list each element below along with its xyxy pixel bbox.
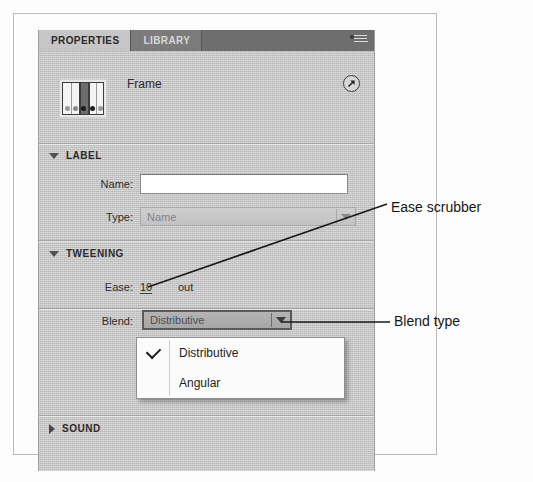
screenshot-root: PROPERTIES LIBRARY [0, 0, 533, 482]
properties-panel: PROPERTIES LIBRARY [38, 30, 375, 471]
blend-dropdown-menu: Distributive Angular [136, 337, 345, 399]
tab-properties-label: PROPERTIES [51, 35, 119, 46]
divider-above-sound [39, 415, 374, 416]
blend-field-label: Blend: [61, 315, 133, 327]
blend-select[interactable]: Distributive [142, 310, 292, 330]
divider-above-blend [39, 308, 374, 309]
name-input[interactable] [140, 174, 348, 194]
blend-select-value: Distributive [144, 314, 271, 326]
checkmark-icon [137, 338, 169, 368]
section-header-sound[interactable]: SOUND [49, 423, 101, 434]
section-sound-title: SOUND [62, 423, 101, 434]
panel-tab-bar: PROPERTIES LIBRARY [39, 30, 374, 51]
menu-item-angular[interactable]: Angular [137, 368, 344, 398]
panel-menu-dot [350, 35, 354, 39]
type-select[interactable]: Name [140, 207, 356, 226]
menu-item-distributive-label: Distributive [169, 346, 238, 360]
ease-scrubber-value[interactable]: 10 [140, 281, 152, 294]
label-name-field-label: Name: [61, 178, 133, 190]
tab-library[interactable]: LIBRARY [131, 30, 202, 51]
diagonal-arrow-icon[interactable] [343, 75, 360, 92]
panel-menu-icon[interactable] [354, 35, 368, 46]
chevron-down-icon [272, 317, 290, 323]
tab-properties[interactable]: PROPERTIES [39, 30, 131, 51]
ease-direction-label: out [178, 281, 193, 293]
annotation-ease-scrubber: Ease scrubber [391, 199, 481, 215]
section-header-tweening[interactable]: TWEENING [49, 248, 124, 259]
menu-item-angular-label: Angular [169, 376, 220, 390]
divider-above-label [39, 143, 374, 144]
triangle-down-icon [49, 153, 59, 159]
section-tweening-title: TWEENING [66, 248, 124, 259]
label-type-field-label: Type: [61, 211, 133, 223]
tab-library-label: LIBRARY [143, 35, 190, 46]
divider-above-tweening [39, 240, 374, 241]
triangle-down-icon [49, 251, 59, 257]
section-label-title: LABEL [66, 150, 102, 161]
section-header-label[interactable]: LABEL [49, 150, 102, 161]
triangle-right-icon [49, 424, 55, 434]
type-select-value: Name [141, 211, 336, 223]
tab-bar-filler [202, 30, 374, 51]
frame-timeline-thumbnail-icon [59, 79, 107, 118]
panel-header: Frame [39, 51, 374, 143]
page-title: Frame [127, 77, 162, 91]
menu-item-distributive[interactable]: Distributive [137, 338, 344, 368]
chevron-down-icon [337, 214, 355, 220]
annotation-blend-type: Blend type [394, 313, 460, 329]
ease-field-label: Ease: [61, 281, 133, 293]
